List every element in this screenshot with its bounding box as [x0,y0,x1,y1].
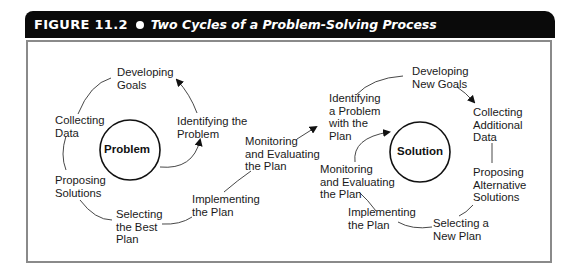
label-monitoring-evaluating-1: Monitoring and Evaluating the Plan [245,135,320,173]
label-monitoring-evaluating-2: Monitoring and Evaluating the Plan [320,163,395,201]
label-developing-goals: Developing Goals [117,66,174,91]
arc-identifying-to-goals [177,80,197,113]
solution-center-label: Solution [397,145,443,157]
label-selecting-best-plan: Selecting the Best Plan [116,208,162,246]
label-collecting-data: Collecting Data [55,114,105,139]
label-implementing-plan-2: Implementing the Plan [348,206,416,231]
arc-goals-to-collecting [78,78,111,114]
label-collecting-additional-data: Collecting Additional Data [473,106,523,144]
label-selecting-new-plan: Selecting a New Plan [433,217,489,242]
arc-implementing-to-monitoring [224,171,251,192]
arc-problem-to-identifying [160,140,200,167]
problem-center-label: Problem [104,143,150,155]
arc-proposing-to-selecting2 [459,205,473,216]
label-implementing-plan-1: Implementing the Plan [192,193,260,218]
arc-selecting-to-implementing [162,217,192,224]
arc-collecting-to-proposing [63,136,66,170]
label-identifying-problem: Identifying the Problem [177,115,247,140]
label-proposing-solutions: Proposing Solutions [55,174,106,199]
label-proposing-alternative-solutions: Proposing Alternative Solutions [473,166,526,204]
arc-proposing-to-selecting [80,200,112,220]
label-identifying-problem-with-plan: Identifying a Problem with the Plan [329,92,381,142]
label-developing-new-goals: Developing New Goals [412,65,469,90]
